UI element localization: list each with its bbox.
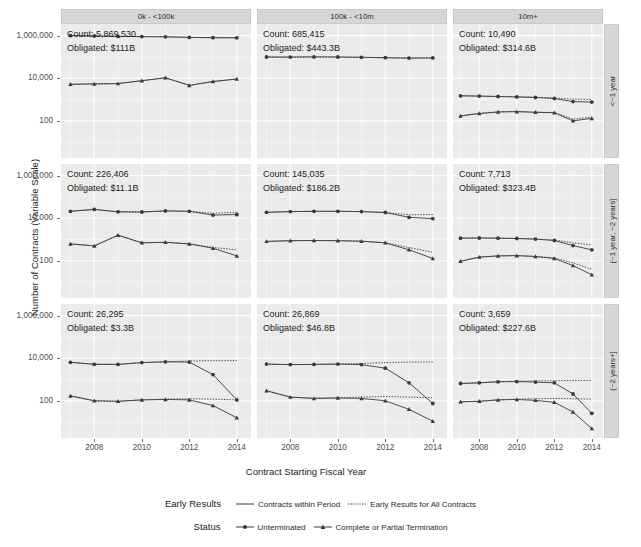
panel-r2-c1: Count: 26,869Obligated: $46.8B <box>257 304 447 438</box>
y-tick-mark <box>57 358 60 359</box>
legend-item-label[interactable]: Unterminated <box>258 523 306 532</box>
legend-line-solid-icon <box>235 499 255 511</box>
y-tick-label: 100 <box>0 256 53 265</box>
y-tick-mark <box>57 218 60 219</box>
legend-title: Status <box>194 521 221 532</box>
y-tick-mark <box>57 121 60 122</box>
row-facet-label: (~1 year, ~2 years] <box>607 198 616 263</box>
y-tick-mark <box>57 36 60 37</box>
legend-early-results: Early ResultsContracts within PeriodEarl… <box>0 498 641 511</box>
legend-item-label[interactable]: Contracts within Period <box>258 500 340 509</box>
y-tick-label: 1,000,000 <box>0 311 53 320</box>
y-tick-label: 10,000 <box>0 73 53 82</box>
legend-line-dotted-icon <box>347 499 367 511</box>
legend-triangle-marker-icon <box>313 522 333 534</box>
legend-item-label[interactable]: Early Results for All Contracts <box>370 500 476 509</box>
column-facet-strip-1: 100k - <10m <box>257 9 447 24</box>
row-facet-label: (~2 years+] <box>607 351 616 390</box>
y-axis-title: Number of Contracts (Variable Scale) <box>29 108 40 368</box>
y-tick-mark <box>57 78 60 79</box>
x-axis-title: Contract Starting Fiscal Year <box>0 466 612 477</box>
y-tick-label: 1,000,000 <box>0 31 53 40</box>
y-tick-mark <box>57 176 60 177</box>
legend-item-label[interactable]: Complete or Partial Termination <box>336 523 448 532</box>
legend-status: StatusUnterminatedComplete or Partial Te… <box>0 521 641 534</box>
column-facet-strip-0: 0k - <100k <box>61 9 251 24</box>
legend-title: Early Results <box>165 498 221 509</box>
row-facet-strip-2: (~2 years+] <box>604 304 619 438</box>
y-tick-mark <box>57 316 60 317</box>
faceted-line-chart: Number of Contracts (Variable Scale) Con… <box>0 0 641 547</box>
facet-grid: 0k - <100k100k - <10m10m+<~1 year(~1 yea… <box>61 9 612 458</box>
y-tick-mark <box>57 401 60 402</box>
row-facet-strip-0: <~1 year <box>604 24 619 158</box>
y-tick-label: 100 <box>0 396 53 405</box>
legend-circle-marker-icon <box>235 522 255 534</box>
panel-r0-c1: Count: 685,415Obligated: $443.3B <box>257 24 447 158</box>
y-tick-mark <box>57 261 60 262</box>
panel-r1-c0: Count: 226,406Obligated: $11.1B <box>61 164 251 298</box>
y-tick-label: 10,000 <box>0 213 53 222</box>
panel-r2-c0: Count: 26,295Obligated: $3.3B <box>61 304 251 438</box>
y-tick-label: 100 <box>0 116 53 125</box>
y-tick-label: 10,000 <box>0 353 53 362</box>
row-facet-label: <~1 year <box>607 76 616 107</box>
panel-r1-c1: Count: 145,035Obligated: $186.2B <box>257 164 447 298</box>
panel-r1-c2: Count: 7,713Obligated: $323.4B <box>453 164 603 298</box>
panel-r0-c2: Count: 10,490Obligated: $314.6B <box>453 24 603 158</box>
panel-r0-c0: Count: 5,869,530Obligated: $111B <box>61 24 251 158</box>
row-facet-strip-1: (~1 year, ~2 years] <box>604 164 619 298</box>
column-facet-strip-2: 10m+ <box>453 9 603 24</box>
y-tick-label: 1,000,000 <box>0 171 53 180</box>
panel-r2-c2: Count: 3,659Obligated: $227.6B <box>453 304 603 438</box>
